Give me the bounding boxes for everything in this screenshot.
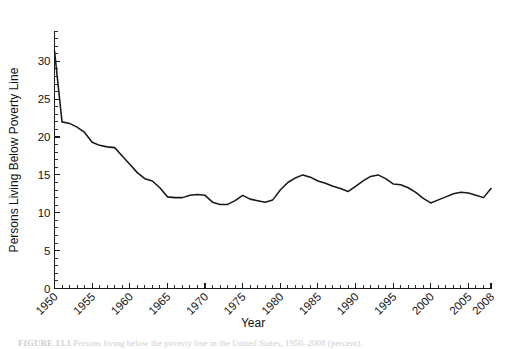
y-tick-label: 10 [38,207,51,219]
figure-caption: FIGURE 13.1 Persons living below the pov… [18,338,493,349]
x-tick-label: 1965 [146,290,173,317]
y-tick-label: 25 [38,93,51,105]
y-tick-label: 5 [44,245,50,257]
x-tick-label: 1995 [372,290,399,317]
x-tick-label: 1985 [297,290,324,317]
x-tick-label: 1980 [259,290,286,317]
poverty-rate-line [55,51,492,205]
data-series-group [55,51,492,205]
x-tick-label: 1960 [109,290,136,317]
y-axis: 051015202530 Persons Living Below Povert… [7,31,60,295]
y-axis-tick-labels: 051015202530 [38,55,51,294]
x-tick-label: 2005 [447,290,474,317]
x-tick-label: 1950 [33,290,60,317]
figure-caption-label: FIGURE 13.1 [18,338,71,348]
y-tick-label: 30 [38,55,51,67]
x-tick-label: 2000 [410,290,437,317]
x-tick-label: 1975 [221,290,248,317]
x-tick-label: 1955 [71,290,98,317]
x-tick-label: 1990 [334,290,361,317]
figure-caption-text: Persons living below the poverty line in… [73,338,362,348]
x-tick-label: 1970 [184,290,211,317]
x-axis-title: Year [241,316,265,330]
x-axis-tick-labels: 1950195519601965197019751980198519901995… [33,290,496,317]
x-tick-label: 2008 [470,290,497,317]
y-axis-title: Persons Living Below Poverty Line [7,67,21,252]
y-tick-label: 20 [38,131,51,143]
x-axis: 1950195519601965197019751980198519901995… [33,283,496,331]
y-tick-label: 15 [38,169,51,181]
